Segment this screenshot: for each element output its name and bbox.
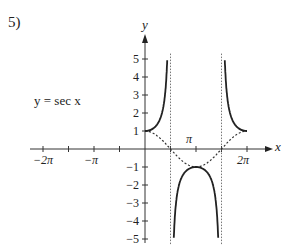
y-tick-label: 5 (133, 53, 139, 65)
x-tick-label: −2π (33, 154, 53, 166)
y-tick-label: −2 (126, 179, 139, 191)
sec-curve (174, 167, 218, 238)
y-axis-arrow-icon (142, 34, 148, 43)
y-tick-label: 1 (133, 125, 139, 137)
sec-curve (145, 60, 167, 131)
y-tick-label: −1 (126, 161, 139, 173)
chart-plot (0, 0, 289, 249)
x-tick-label: 2π (237, 154, 249, 166)
y-tick-label: 2 (133, 107, 139, 119)
y-tick-label: −3 (126, 197, 139, 209)
y-tick-label: 4 (133, 71, 139, 83)
y-tick-label: −5 (126, 233, 139, 245)
sec-curve (225, 60, 247, 131)
x-axis-arrow-icon (265, 146, 273, 152)
x-tick-label: −π (84, 154, 98, 166)
y-tick-label: −4 (126, 215, 139, 227)
x-tick-label: π (186, 133, 192, 145)
y-tick-label: 3 (133, 89, 139, 101)
